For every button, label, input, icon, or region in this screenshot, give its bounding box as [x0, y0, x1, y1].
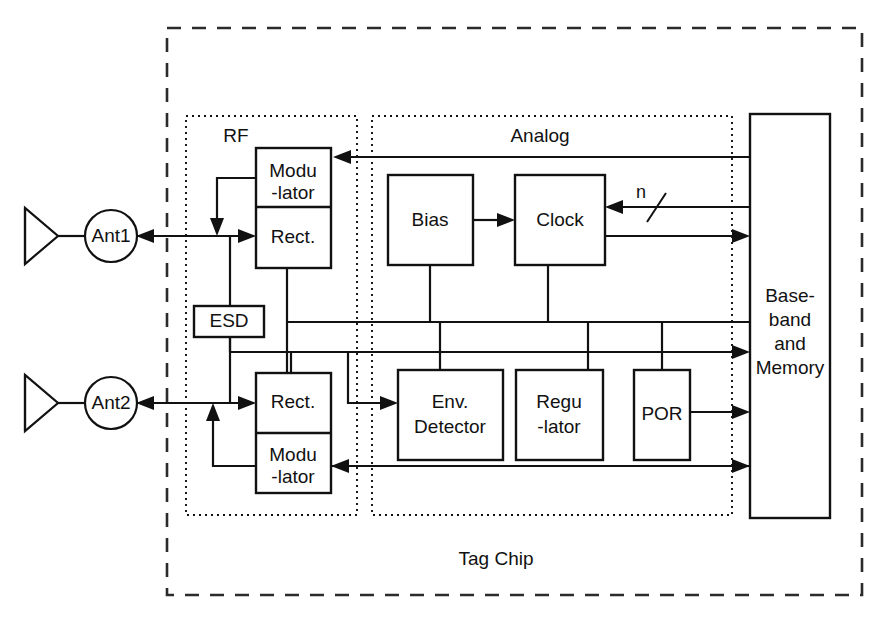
env-detector-label-line1: Env.	[432, 391, 469, 412]
baseband-label-line4: Memory	[756, 357, 825, 378]
clock-label: Clock	[536, 209, 584, 230]
arrow-modulator-top-in	[333, 150, 351, 164]
block-diagram-canvas: RF Analog Tag Chip	[0, 0, 881, 617]
arrow-baseband-in-1	[732, 345, 750, 359]
tag-chip-label: Tag Chip	[459, 548, 534, 569]
arrow-env-detector-in	[380, 396, 398, 410]
env-detector-block: Env. Detector	[398, 370, 503, 460]
modulator-top-label-line2: -lator	[271, 182, 315, 203]
baseband-label-line2: band	[769, 309, 811, 330]
ant1-label: Ant1	[91, 225, 130, 246]
tag-chip-block-diagram: RF Analog Tag Chip	[0, 0, 881, 617]
bias-block: Bias	[388, 175, 473, 265]
arrow-modulator-top-to-ant1	[210, 218, 224, 236]
clock-block: Clock	[515, 175, 605, 265]
rectifier-bottom-label: Rect.	[271, 391, 315, 412]
regulator-block: Regu -lator	[516, 370, 603, 460]
esd-block: ESD	[194, 306, 264, 337]
arrow-clock-in	[605, 200, 623, 214]
arrow-ant1-in	[136, 229, 154, 243]
modulator-bottom-label-line2: -lator	[271, 466, 315, 487]
arrow-ant2-in	[136, 396, 154, 410]
rf-bottom-block: Rect. Modu -lator	[256, 373, 331, 493]
baseband-label-line1: Base-	[765, 285, 815, 306]
arrow-baseband-in-2	[732, 405, 750, 419]
arrow-baseband-in-3	[732, 459, 750, 473]
arrow-baseband-in-0	[732, 229, 750, 243]
arrow-clock-from-bias	[497, 213, 515, 227]
esd-label: ESD	[209, 310, 248, 331]
regulator-label-line1: Regu	[536, 391, 581, 412]
baseband-label-line3: and	[774, 333, 806, 354]
analog-group-label: Analog	[510, 125, 569, 146]
regulator-label-line2: -lator	[537, 416, 581, 437]
arrow-modulator-bottom-to-ant2	[206, 403, 220, 421]
rectifier-top-label: Rect.	[271, 226, 315, 247]
ant2-label: Ant2	[91, 392, 130, 413]
por-label: POR	[641, 403, 682, 424]
arrow-rect-top-in	[238, 229, 256, 243]
arrow-rect-bottom-in	[238, 396, 256, 410]
env-detector-label-line2: Detector	[414, 416, 486, 437]
modulator-top-label-line1: Modu	[269, 160, 317, 181]
arrow-modulator-bottom-in	[331, 459, 349, 473]
rf-top-block: Modu -lator Rect.	[256, 148, 331, 268]
bus-width-label: n	[636, 182, 646, 202]
antenna2-symbol	[25, 375, 58, 431]
wire-rail-to-env-detector	[348, 352, 388, 403]
baseband-memory-block: Base- band and Memory	[750, 114, 830, 518]
modulator-bottom-label-line1: Modu	[269, 444, 317, 465]
rf-group-label: RF	[223, 125, 248, 146]
bias-label: Bias	[412, 209, 449, 230]
por-block: POR	[634, 370, 690, 460]
antenna1-symbol	[25, 208, 58, 264]
